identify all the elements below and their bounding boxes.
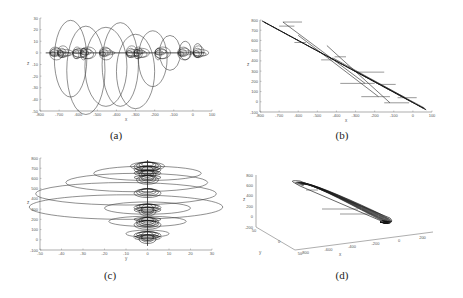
x-tick-label: -500 (93, 112, 102, 117)
x-tick-label: -100 (170, 112, 179, 117)
y-tick-label: 200 (31, 217, 38, 222)
chart-panel-c: -50-40-30-20-100102030800700600500400300… (0, 150, 230, 298)
x-tick-label: -100 (390, 113, 399, 118)
chart-panel-a: -800-700-600-500-400-300-200-10001003020… (0, 0, 230, 150)
y-tick-label: 10 (34, 39, 39, 44)
x-tick-label: -300 (352, 113, 361, 118)
y-tick-label: -20 (32, 74, 39, 79)
y-tick-label: 500 (31, 186, 38, 191)
y-axis-label: z (247, 62, 250, 67)
x-axis-label: y (125, 256, 128, 261)
y-tick-label: 200 (251, 79, 258, 84)
y-tick-label: 100 (251, 89, 258, 94)
y-tick-label: 400 (251, 58, 258, 63)
y-tick-label: 800 (251, 18, 258, 23)
y-tick-label: 700 (251, 28, 258, 33)
x-axis-label: x (345, 118, 348, 123)
y-tick-label: 0 (36, 237, 39, 242)
x-tick-label: -400 (348, 244, 357, 249)
y-tick-label: -100 (30, 248, 39, 253)
x-tick-label: -800 (301, 250, 310, 255)
series-c (29, 160, 223, 246)
z-tick-label: 600 (246, 183, 253, 188)
y-tick-label: -10 (32, 62, 39, 67)
chart-panel-d: 8006004002000-200z50050y-800-600-400-200… (240, 150, 463, 298)
x-tick-label: -700 (275, 113, 284, 118)
x-tick-label: -700 (55, 112, 64, 117)
x-tick-label: -500 (313, 113, 322, 118)
x-tick-label: -600 (74, 112, 83, 117)
z-tick-label: 400 (246, 193, 253, 198)
plot-a: -800-700-600-500-400-300-200-10001003020… (0, 0, 230, 150)
x-tick-label: -400 (112, 112, 121, 117)
axes-3d: 8006004002000-200z50050y-800-600-400-200… (243, 173, 433, 258)
x-axis-label: x (339, 252, 342, 257)
x-tick-label: -600 (294, 113, 303, 118)
y-tick-label: 0 (36, 50, 39, 55)
y-tick-label: 800 (31, 156, 38, 161)
x-tick-label: -40 (59, 251, 66, 256)
y-axis-label: z (27, 61, 30, 66)
x-tick-label: -50 (37, 251, 44, 256)
y-tick-label: 20 (34, 27, 39, 32)
caption-b: (b) (322, 129, 362, 141)
x-tick-label: -30 (80, 251, 87, 256)
y-tick-label: 300 (251, 69, 258, 74)
x-tick-label: 0 (146, 251, 149, 256)
y-tick-label: 400 (31, 196, 38, 201)
x-tick-label: 10 (167, 251, 172, 256)
x-tick-label: 0 (412, 113, 415, 118)
x-tick-label: -600 (324, 247, 333, 252)
series-b (262, 21, 426, 110)
y-tick-label: 0 (256, 99, 259, 104)
caption-c: (c) (90, 269, 130, 281)
chart-panel-b: -800-700-600-500-400-300-200-10001008007… (240, 0, 463, 150)
x-tick-label: 0 (192, 112, 195, 117)
x-tick-label: -300 (132, 112, 141, 117)
y-tick-label: 600 (31, 176, 38, 181)
y-tick-label: -30 (32, 85, 39, 90)
y-tick-label: 500 (251, 48, 258, 53)
x-axis-label: x (125, 117, 128, 122)
caption-a: (a) (96, 129, 136, 141)
y-tick-label: -100 (250, 110, 259, 115)
y-tick-label: 100 (31, 227, 38, 232)
x-tick-label: 100 (209, 112, 216, 117)
y-axis-label: z (27, 200, 30, 205)
y-axis (256, 227, 295, 250)
x-tick-label: 100 (429, 113, 436, 118)
z-tick-label: 800 (246, 173, 253, 178)
x-tick-label: -200 (371, 113, 380, 118)
y-tick-label: 700 (31, 166, 38, 171)
z-tick-label: 0 (251, 214, 254, 219)
x-tick-label: 20 (188, 251, 193, 256)
x-tick-label: 30 (210, 251, 215, 256)
series-a (46, 20, 209, 114)
caption-d: (d) (322, 269, 362, 281)
plot-b: -800-700-600-500-400-300-200-10001008007… (240, 0, 463, 150)
x-tick-label: -200 (371, 241, 380, 246)
y-axis-label: y (259, 250, 262, 255)
y-tick-label: 30 (34, 16, 39, 21)
x-tick-label: 0 (398, 238, 401, 243)
y-tick-label: 300 (31, 207, 38, 212)
x-tick-label: -20 (102, 251, 109, 256)
y-tick-label: 600 (251, 38, 258, 43)
z-tick-label: 200 (246, 204, 253, 209)
y-tick-label: -50 (32, 109, 39, 114)
x-tick-label: -400 (332, 113, 341, 118)
x-tick-label: 200 (419, 235, 426, 240)
x-tick-label: -200 (151, 112, 160, 117)
series-d (292, 181, 391, 224)
y-tick-label: 50 (252, 228, 257, 233)
y-tick-label: -40 (32, 97, 39, 102)
x-axis (295, 232, 433, 250)
